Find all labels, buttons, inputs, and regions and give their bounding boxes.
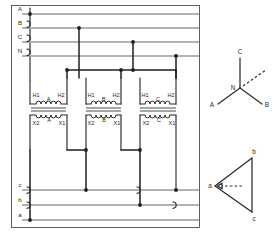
tx-b-x1-label: X1 (114, 120, 121, 126)
bus-label-c: C (18, 33, 23, 40)
tx-a-h1-label: H1 (32, 92, 39, 98)
bus-label-b: B (18, 19, 22, 26)
tx-b-phase-label-primary: B (102, 96, 106, 102)
bus-hop-b (27, 21, 30, 27)
tx-c-h1-label: H1 (141, 92, 148, 98)
bus-label-a: A (18, 5, 23, 12)
delta-vertex-label-b: b (252, 148, 256, 155)
transformer-a: H1 H2 A X2 X1 A (30, 78, 67, 150)
junction-dot-b (77, 26, 81, 30)
delta-triangle (215, 158, 252, 212)
primary-bus-labels: A B C N (18, 5, 23, 54)
sec-junction-a (28, 218, 32, 222)
secondary-bus-labels: c b a (18, 181, 22, 218)
sec-junction-c (84, 188, 88, 192)
transformer-c: H1 H2 C X2 X1 C (140, 78, 176, 190)
wye-vector-diagram: C N A B (210, 48, 269, 108)
delta-vertex-label-c: c (252, 215, 256, 222)
tx-b-h2-label: H2 (112, 92, 119, 98)
junction-dot-n (174, 54, 178, 58)
tx-c-x1-label: X1 (169, 120, 176, 126)
tx-c-phase-label-primary: C (156, 96, 160, 102)
wye-vertex-label-a: A (210, 101, 215, 108)
sec-bus-label-a: a (18, 211, 22, 218)
bus-label-n: N (18, 47, 22, 54)
tx-b-x2-label: X2 (88, 120, 95, 126)
wye-center-label-n: N (231, 84, 236, 91)
primary-tap-drops (28, 12, 178, 78)
tx-c-x2-label: X2 (143, 120, 150, 126)
junction-dot-c (131, 40, 135, 44)
tx-c-h2-label: H2 (167, 92, 174, 98)
primary-bus (22, 8, 199, 80)
delta-vector-diagram: b a c (208, 148, 256, 222)
wye-arm-b (240, 88, 262, 104)
tx-c-phase-label-secondary: C (157, 117, 161, 123)
tx-b-phase-label-secondary: B (102, 117, 106, 123)
neutral-dot-c (131, 68, 135, 72)
bus-hop-c (27, 35, 30, 41)
wye-reference-dashed (243, 70, 266, 86)
secondary-bus (22, 187, 199, 222)
tx-a-phase-label-secondary: A (47, 117, 51, 123)
tx-b-h1-label: H1 (87, 92, 94, 98)
sec-junction-c2 (174, 188, 178, 192)
tx-a-x2-label: X2 (33, 120, 40, 126)
delta-interconnect (30, 148, 142, 220)
sec-bus-label-c: c (18, 181, 21, 188)
neutral-tie-bar (65, 68, 176, 78)
sec-junction-b (138, 203, 142, 207)
sec-bus-label-b: b (18, 196, 22, 203)
junction-dot-a (28, 12, 32, 16)
delta-vertex-label-a: a (208, 182, 212, 189)
wye-arm-a (218, 88, 240, 104)
transformer-bank-diagram: A B C N (0, 0, 280, 233)
tx-a-x1-label: X1 (59, 120, 66, 126)
tx-a-phase-label-primary: A (47, 96, 51, 102)
wye-vertex-label-c: C (238, 48, 243, 55)
bus-hop-n (27, 49, 30, 55)
wye-vertex-label-b: B (265, 101, 269, 108)
transformer-b: H1 H2 B X2 X1 B (86, 78, 121, 150)
tx-a-h2-label: H2 (57, 92, 64, 98)
